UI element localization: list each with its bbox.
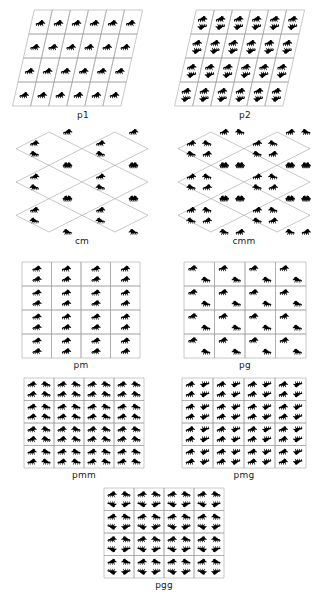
lattice-cell [276, 262, 307, 286]
animal-motif [121, 524, 130, 530]
lattice-cell [245, 310, 276, 334]
animal-motif [107, 491, 116, 497]
animal-motif [279, 449, 288, 455]
animal-motif [223, 64, 233, 70]
animal-motif [27, 414, 36, 420]
animal-motif [217, 426, 226, 432]
animal-motif [262, 381, 271, 387]
lattice-cell [104, 556, 134, 579]
lattice-cell [211, 82, 234, 106]
animal-motif [217, 459, 226, 465]
lattice-cell [263, 10, 286, 34]
animal-motif [248, 449, 257, 455]
lattice-cell [213, 401, 244, 424]
lattice-cell [213, 378, 244, 401]
lattice-cell [258, 34, 281, 58]
animal-motif [101, 459, 110, 465]
animal-motif [252, 151, 261, 157]
animal-motif [107, 536, 116, 542]
animal-motif [200, 88, 210, 94]
animal-motif [211, 559, 220, 565]
animal-motif [262, 426, 271, 432]
animal-motif [41, 404, 50, 410]
animal-motif [280, 265, 289, 271]
animal-motif [216, 16, 226, 22]
animal-motif [246, 40, 256, 46]
animal-motif [55, 92, 65, 98]
animal-motif [91, 314, 100, 320]
lattice-cell [244, 378, 275, 401]
animal-motif [101, 391, 110, 397]
animal-motif [262, 277, 271, 283]
lattice-cell [245, 334, 276, 358]
animal-motif [66, 44, 76, 50]
animal-motif [167, 569, 176, 575]
animal-motif [197, 546, 206, 552]
animal-motif [91, 300, 100, 306]
animal-motif [137, 514, 146, 520]
lattice-cell [215, 334, 246, 358]
animal-motif [293, 349, 302, 355]
animal-motif [211, 524, 220, 530]
lattice-cell [81, 310, 111, 334]
animal-motif [137, 559, 146, 565]
animal-motif [270, 16, 280, 22]
animal-motif [91, 338, 100, 344]
animal-motif [121, 338, 130, 344]
animal-motif [279, 459, 288, 465]
lattice-cell [104, 488, 134, 511]
lattice-cell [276, 286, 307, 310]
pattern-pmg [182, 378, 306, 468]
animal-motif [249, 289, 258, 295]
lattice-cell [275, 401, 306, 424]
animal-motif [62, 314, 71, 320]
animal-motif [186, 391, 195, 397]
animal-motif [201, 349, 210, 355]
lattice-cell [275, 446, 306, 469]
lattice-cell [184, 262, 215, 286]
animal-motif [235, 129, 244, 135]
lattice-cell [81, 334, 111, 358]
animal-motif [293, 459, 302, 465]
animal-motif [167, 491, 176, 497]
animal-motif [137, 569, 146, 575]
animal-motif [25, 68, 35, 74]
pattern-pmm [24, 378, 144, 468]
animal-motif [219, 313, 228, 319]
animal-motif [167, 559, 176, 565]
animal-motif [286, 129, 295, 135]
animal-motif [121, 324, 130, 330]
pattern-pg [184, 262, 306, 358]
animal-motif [293, 436, 302, 442]
wallpaper-panel-pmg [182, 378, 306, 468]
animal-motif [48, 44, 58, 50]
animal-motif [62, 348, 71, 354]
animal-motif [181, 569, 190, 575]
wallpaper-panel-cm [16, 132, 148, 232]
animal-motif [199, 96, 209, 102]
animal-motif [236, 229, 245, 235]
lattice-cell [16, 132, 82, 165]
lattice-cell [234, 58, 257, 82]
lattice-cell [104, 533, 134, 556]
animal-motif [27, 449, 36, 455]
animal-motif [279, 381, 288, 387]
animal-motif [241, 64, 251, 70]
lattice-cell [114, 446, 144, 469]
animal-motif [293, 449, 302, 455]
animal-motif [219, 337, 228, 343]
animal-motif [121, 514, 130, 520]
animal-motif [280, 313, 289, 319]
animal-motif [32, 314, 41, 320]
wallpaper-groups-figure: p1p2cmcmmpmpgpmmpmgpgg [0, 0, 328, 605]
animal-motif [27, 381, 36, 387]
animal-motif [41, 414, 50, 420]
lattice-cell [164, 533, 194, 556]
animal-motif [181, 524, 190, 530]
lattice-cell [164, 511, 194, 534]
pattern-pm [22, 262, 140, 358]
animal-motif [186, 436, 195, 442]
lattice-cell [275, 378, 306, 401]
lattice-cell [178, 165, 244, 198]
animal-motif [232, 301, 241, 307]
